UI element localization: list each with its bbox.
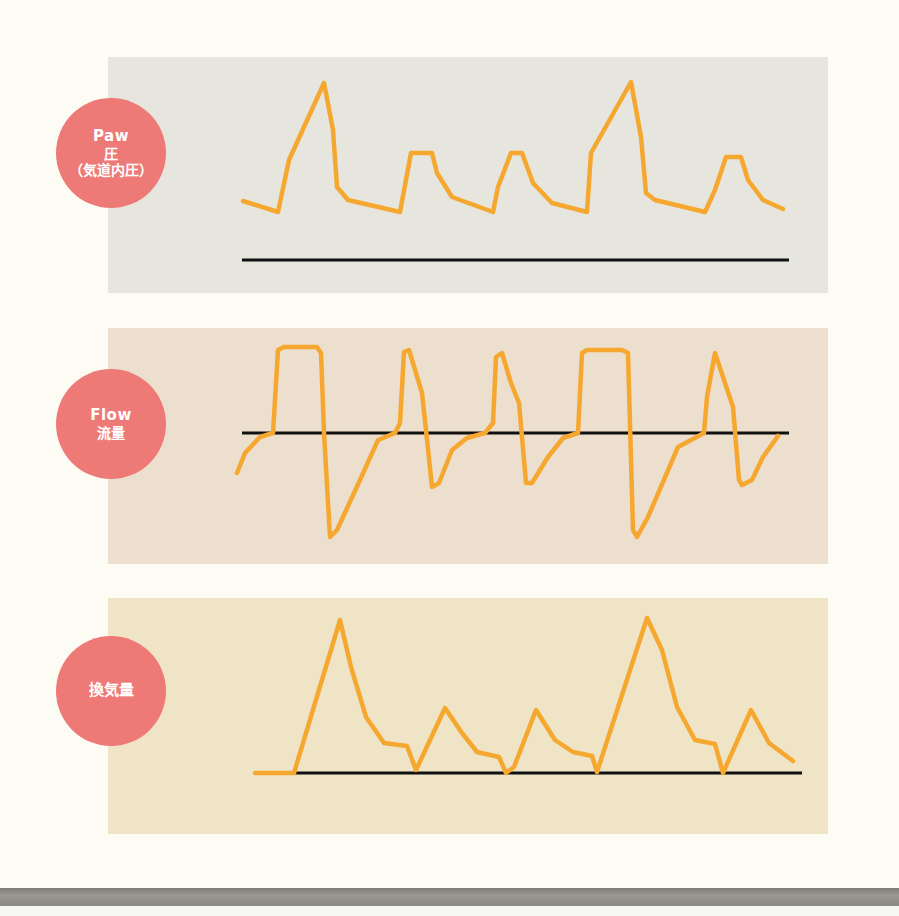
paw-label-badge: Paw 圧 （気道内圧） xyxy=(56,98,166,208)
volume-label-jp: 換気量 xyxy=(89,682,134,699)
flow-label-badge: Flow 流量 xyxy=(56,369,166,479)
flow-label-jp: 流量 xyxy=(97,425,125,441)
bottom-strip xyxy=(0,906,899,916)
paw-label-jp: 圧 xyxy=(104,146,118,162)
volume-waveform xyxy=(255,618,793,773)
paw-waveform xyxy=(243,82,783,212)
volume-label-badge: 換気量 xyxy=(56,636,166,746)
bottom-gray-band xyxy=(0,888,899,906)
flow-waveform xyxy=(237,347,778,537)
paw-label-jp-sub: （気道内圧） xyxy=(69,162,153,178)
flow-label-en: Flow xyxy=(90,407,132,424)
paw-label-en: Paw xyxy=(93,128,129,145)
